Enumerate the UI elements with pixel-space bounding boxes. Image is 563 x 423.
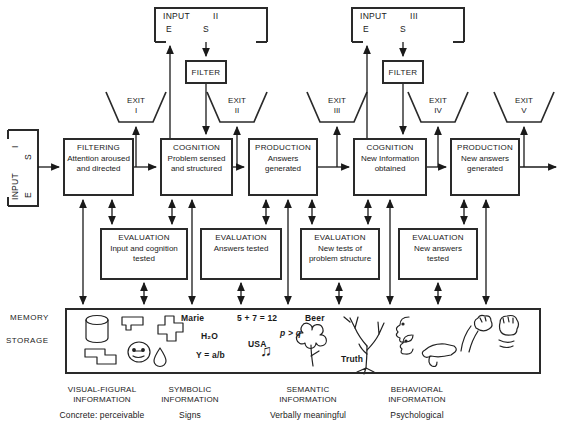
production-2-title: PRODUCTION (457, 143, 513, 153)
category-visual-figural-title: VISUAL-FIGURAL INFORMATION (57, 385, 147, 405)
category-visual-figural: VISUAL-FIGURAL INFORMATION Concrete: per… (57, 385, 147, 420)
evaluation-1-body: Input and cognition tested (102, 244, 186, 263)
category-behavioral-subtitle: Psychological (372, 410, 462, 420)
input-1-letter-s: S (23, 154, 33, 160)
memory-item-pq: p > q (280, 328, 301, 338)
category-visual-figural-subtitle: Concrete: perceivable (57, 410, 147, 420)
evaluation-3-title: EVALUATION (314, 233, 366, 243)
filter-1-box: FILTER (185, 60, 227, 84)
input-1-box: INPUT I E S (8, 130, 38, 206)
memory-storage-box (65, 308, 541, 374)
filtering-body: Attention aroused and directed (65, 154, 132, 173)
evaluation-4-title: EVALUATION (412, 233, 464, 243)
input-3-label: INPUT (360, 11, 387, 21)
memory-item-truth: Truth (341, 354, 363, 364)
music-notes-icon: ♫ (260, 343, 272, 359)
input-1-label: INPUT (10, 173, 20, 200)
input-filter-arrows (170, 42, 403, 138)
production-1-body: Answers generated (250, 154, 316, 173)
evaluation-4-box: EVALUATION New answers tested (398, 228, 478, 280)
evaluation-4-body: New answers tested (400, 244, 476, 263)
evaluation-3-body: New tests of problem structure (302, 244, 378, 263)
input-3-numeral: III (410, 11, 418, 21)
filter-2-label: FILTER (389, 68, 418, 77)
memory-item-h2o: H₂O (201, 331, 218, 341)
cognition-1-title: COGNITION (173, 143, 220, 153)
memory-item-y-ab: Y = a/b (196, 350, 225, 360)
category-symbolic: SYMBOLIC INFORMATION Signs (150, 385, 230, 420)
exit-3-label: EXITIII (315, 96, 359, 116)
memory-item-sum: 5 + 7 = 12 (237, 313, 277, 323)
category-symbolic-title: SYMBOLIC INFORMATION (150, 385, 230, 405)
cognition-2-box: COGNITION New Information obtained (353, 138, 427, 196)
filtering-title: FILTERING (77, 143, 120, 153)
cognition-2-body: New Information obtained (355, 154, 425, 173)
evaluation-3-box: EVALUATION New tests of problem structur… (300, 228, 380, 280)
filtering-box: FILTERING Attention aroused and directed (63, 138, 134, 196)
memory-item-marie: Marie (181, 313, 204, 323)
production-2-body: New answers generated (452, 154, 518, 173)
filter-1-label: FILTER (192, 68, 221, 77)
problem-solving-model-diagram: INPUT II E S INPUT III E S INPUT I E S F… (0, 0, 563, 423)
input-3-letter-e: E (363, 24, 369, 34)
evaluation-1-box: EVALUATION Input and cognition tested (100, 228, 188, 280)
evaluation-2-box: EVALUATION Answers tested (200, 228, 282, 280)
category-behavioral-title: BEHAVIORAL INFORMATION (372, 385, 462, 405)
input-3-letter-s: S (400, 24, 406, 34)
cognition-1-body: Problem sensed and structured (162, 154, 231, 173)
filter-2-box: FILTER (382, 60, 424, 84)
category-behavioral: BEHAVIORAL INFORMATION Psychological (372, 385, 462, 420)
production-2-box: PRODUCTION New answers generated (450, 138, 520, 196)
evaluation-2-body: Answers tested (212, 244, 271, 254)
exit-1-label: EXITI (114, 96, 158, 116)
category-semantic-subtitle: Verbally meaningful (263, 410, 353, 420)
input-1-numeral: I (10, 145, 20, 148)
production-1-box: PRODUCTION Answers generated (248, 138, 318, 196)
exit-4-label: EXITIV (416, 96, 460, 116)
memory-label: MEMORY (10, 313, 49, 322)
production-1-title: PRODUCTION (255, 143, 311, 153)
input-2-letter-s: S (203, 24, 209, 34)
cognition-2-title: COGNITION (366, 143, 413, 153)
category-semantic: SEMANTIC INFORMATION Verbally meaningful (263, 385, 353, 420)
cognition-1-box: COGNITION Problem sensed and structured (160, 138, 233, 196)
input-2-numeral: II (213, 11, 218, 21)
exit-2-label: EXITII (215, 96, 259, 116)
input-2-label: INPUT (163, 11, 190, 21)
input-2-letter-e: E (166, 24, 172, 34)
category-semantic-title: SEMANTIC INFORMATION (263, 385, 353, 405)
exit-5-label: EXITV (502, 96, 546, 116)
memory-item-beer: Beer (305, 313, 325, 323)
storage-label: STORAGE (6, 336, 48, 345)
category-symbolic-subtitle: Signs (150, 410, 230, 420)
evaluation-2-title: EVALUATION (215, 233, 267, 243)
input-1-letter-e: E (23, 192, 33, 198)
evaluation-1-title: EVALUATION (118, 233, 170, 243)
